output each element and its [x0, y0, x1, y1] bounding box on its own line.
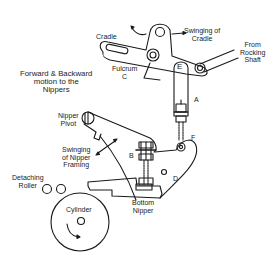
- label-line: Swinging: [62, 146, 90, 154]
- label-line: Bottom: [132, 199, 154, 207]
- label-line: Nipper: [58, 112, 79, 120]
- label-line: of Nipper: [62, 154, 90, 162]
- nipper-swing-arrow: [96, 139, 117, 155]
- bottom-nipper: [88, 178, 162, 198]
- label-detaching-roller: Detaching Roller: [12, 174, 44, 189]
- label-line: Rocking: [240, 49, 265, 57]
- label-line: Shaft: [240, 56, 265, 64]
- label-point-e: E: [177, 63, 182, 71]
- label-cradle: Cradle: [96, 33, 117, 41]
- label-line: Framing: [62, 161, 90, 169]
- label-point-d: D: [173, 175, 178, 183]
- detaching-rollers: [43, 185, 66, 194]
- label-bottom-nipper: Bottom Nipper: [132, 199, 154, 214]
- label-fulcrum-c: Fulcrum C: [112, 65, 137, 80]
- label-line: From: [240, 41, 265, 49]
- label-point-a: A: [194, 96, 199, 104]
- label-line: Detaching: [12, 174, 44, 182]
- label-nipper-pivot: Nipper Pivot: [58, 112, 79, 127]
- label-line: Roller: [12, 182, 44, 190]
- label-line: Swinging of: [184, 27, 220, 35]
- label-line: Pivot: [58, 120, 79, 128]
- label-line: Cradle: [184, 35, 220, 43]
- label-cylinder: Cylinder: [66, 206, 92, 214]
- label-swinging-of-cradle: Swinging of Cradle: [184, 27, 220, 42]
- label-line: C: [112, 73, 137, 81]
- rocking-shaft: [195, 50, 238, 73]
- label-line: Nippers: [20, 86, 92, 94]
- label-from-rocking-shaft: From Rocking Shaft: [240, 41, 265, 64]
- mechanism-drawing: [0, 0, 276, 259]
- label-point-f: F: [191, 134, 195, 142]
- label-forward-backward-motion: Forward & Backward motion to the Nippers: [20, 70, 92, 94]
- label-line: Fulcrum: [112, 65, 137, 73]
- cylinder: [51, 193, 109, 251]
- label-line: Nipper: [132, 207, 154, 215]
- label-swinging-of-nipper-framing: Swinging of Nipper Framing: [62, 146, 90, 169]
- comber-nipper-diagram: Cradle Swinging of Cradle From Rocking S…: [0, 0, 276, 259]
- label-point-b: B: [129, 152, 134, 160]
